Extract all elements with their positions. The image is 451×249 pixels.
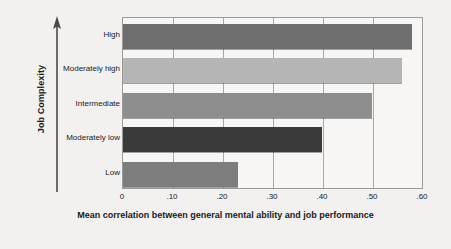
category-label-low: Low	[62, 168, 120, 177]
category-label-moderately-high: Moderately high	[62, 64, 120, 73]
bar-moderately-low	[123, 127, 322, 152]
category-label-moderately-low: Moderately low	[62, 133, 120, 142]
bar-low	[123, 162, 238, 187]
x-tick-60: .60	[416, 192, 427, 201]
plot-area	[122, 17, 423, 189]
x-tick-20: .20	[216, 192, 227, 201]
bar-moderately-high	[123, 58, 402, 83]
y-axis-arrow-icon	[52, 16, 62, 192]
x-axis-title: Mean correlation between general mental …	[0, 210, 451, 220]
category-label-high: High	[62, 30, 120, 39]
y-axis-title: Job Complexity	[36, 24, 46, 174]
x-tick-0: 0	[120, 192, 124, 201]
x-axis-tick-labels: 0 .10 .20 .30 .40 .50 .60	[122, 192, 423, 204]
y-axis-category-labels: High Moderately high Intermediate Modera…	[62, 17, 120, 189]
bar-high	[123, 24, 412, 49]
x-tick-50: .50	[366, 192, 377, 201]
chart-figure: Job Complexity High Moderately high Inte…	[0, 0, 451, 249]
category-label-intermediate: Intermediate	[62, 99, 120, 108]
bar-intermediate	[123, 93, 372, 118]
x-tick-30: .30	[266, 192, 277, 201]
x-tick-40: .40	[316, 192, 327, 201]
x-tick-10: .10	[166, 192, 177, 201]
